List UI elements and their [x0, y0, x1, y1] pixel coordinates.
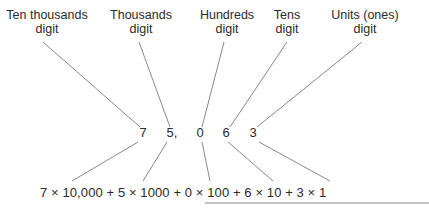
digit-thousands: 5, [167, 125, 178, 140]
label-ten-thousands-line1: Ten thousands [6, 8, 87, 22]
digit-units: 3 [249, 125, 256, 140]
label-ten-thousands-line2: digit [6, 22, 87, 36]
digit-hundreds: 0 [196, 125, 203, 140]
connector-ten-thousands-upper [43, 42, 140, 127]
label-units: Units (ones) digit [331, 8, 398, 36]
label-ten-thousands: Ten thousands digit [6, 8, 87, 36]
label-hundreds: Hundreds digit [200, 8, 254, 36]
connector-tens-lower [228, 142, 273, 181]
label-tens-line1: Tens [274, 8, 300, 22]
connector-hundreds-lower [202, 142, 210, 181]
digit-tens: 6 [222, 125, 229, 140]
label-hundreds-line1: Hundreds [200, 8, 254, 22]
connector-units-upper [257, 42, 362, 127]
label-thousands-line1: Thousands [110, 8, 172, 22]
connector-ten-thousands-lower [72, 142, 138, 181]
label-thousands: Thousands digit [110, 8, 172, 36]
label-units-line2: digit [331, 22, 398, 36]
connector-thousands-upper [139, 42, 170, 127]
digit-ten-thousands: 7 [139, 125, 146, 140]
connector-tens-upper [230, 42, 287, 127]
label-thousands-line2: digit [110, 22, 172, 36]
label-units-line1: Units (ones) [331, 8, 398, 22]
expanded-form-equation: 7 × 10,000 + 5 × 1000 + 0 × 100 + 6 × 10… [40, 185, 326, 200]
connector-thousands-lower [143, 142, 167, 181]
label-hundreds-line2: digit [200, 22, 254, 36]
connector-units-lower [259, 142, 330, 181]
label-tens-line2: digit [274, 22, 300, 36]
connector-hundreds-upper [202, 42, 224, 127]
label-tens: Tens digit [274, 8, 300, 36]
